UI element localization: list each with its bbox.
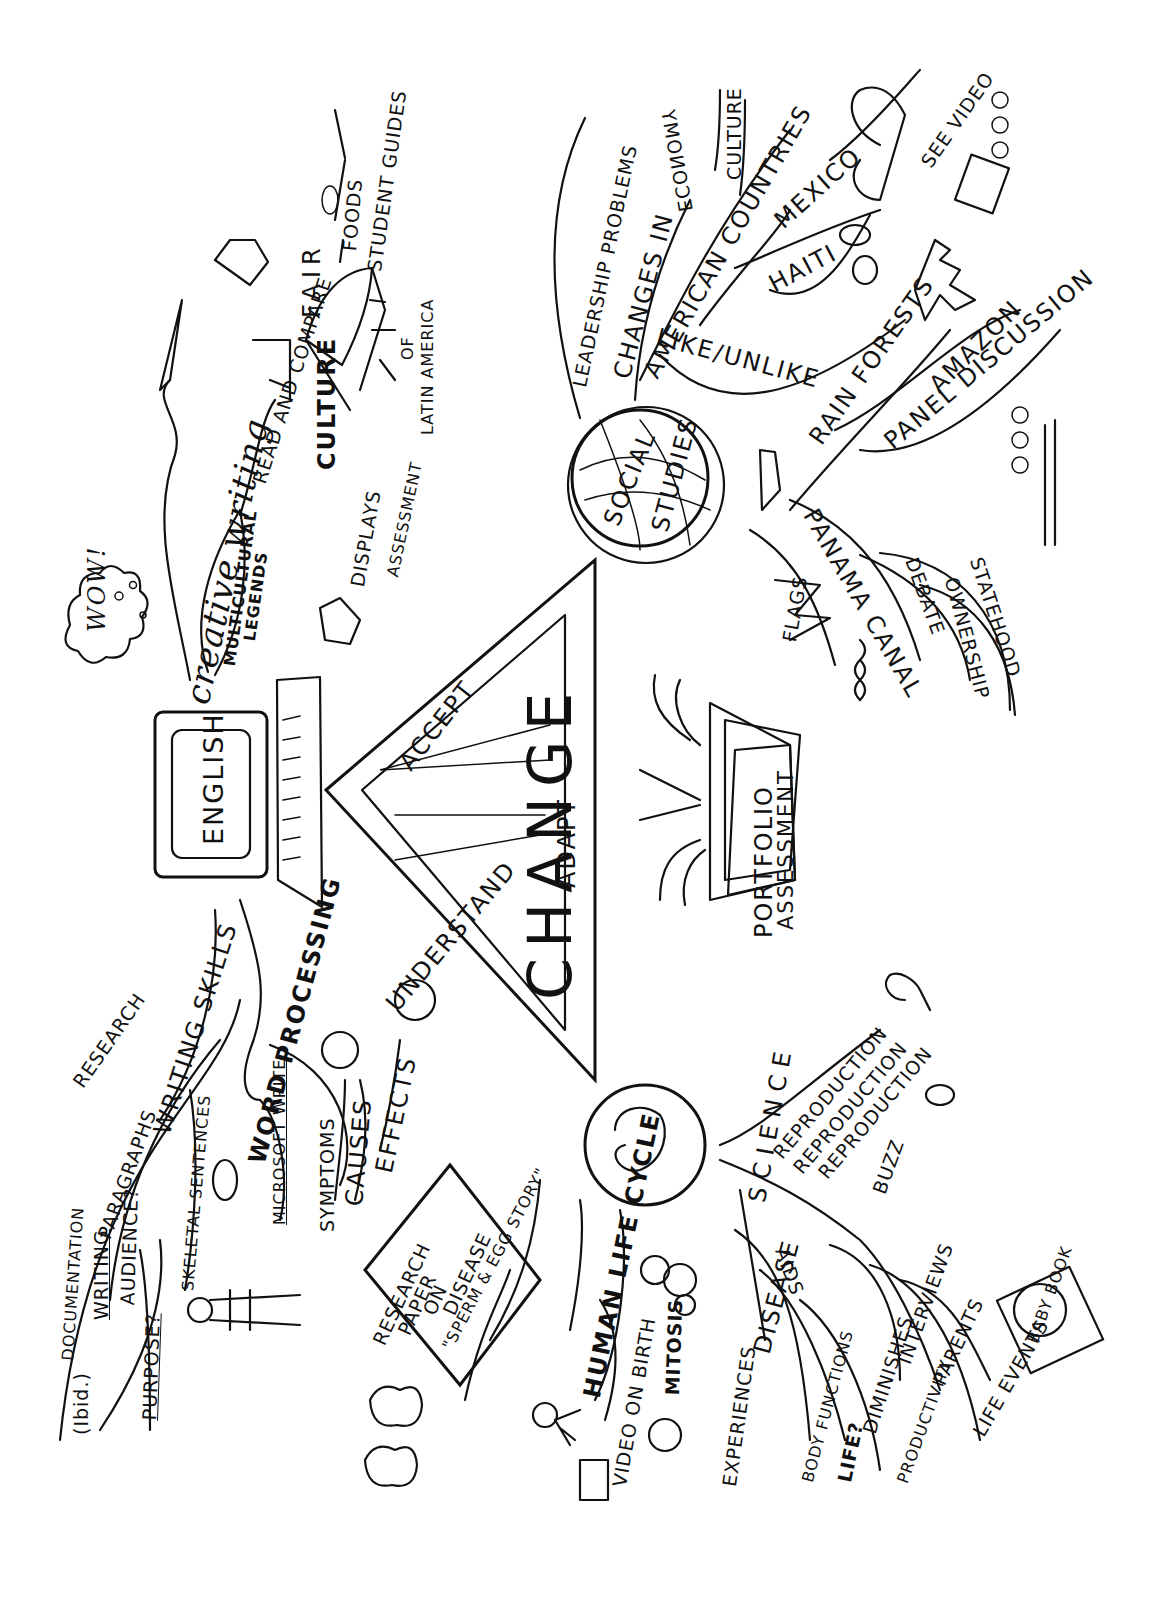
bee-icon xyxy=(926,1085,954,1105)
ibid-label: (Ibid.) xyxy=(72,1372,91,1435)
wow-label: WOW! xyxy=(85,545,109,632)
pen-icon xyxy=(160,300,182,390)
english-hub-label: ENGLISH xyxy=(200,712,227,845)
audience-label: AUDIENCE? xyxy=(118,1187,141,1305)
microsoft-write-label: MICROSOFT WRITE xyxy=(272,1059,288,1225)
purpose-label: PURPOSE? xyxy=(140,1313,163,1421)
symptoms-label: SYMPTOMS xyxy=(318,1117,337,1232)
portfolio-label: PORTFOLIO xyxy=(752,785,776,938)
portfolio-assessment-label: ASSESSMENT xyxy=(776,769,797,930)
sombrero-icon xyxy=(852,88,905,200)
computer-icon xyxy=(155,677,322,907)
cloud-icon xyxy=(860,640,865,700)
culture-label: CULTURE xyxy=(315,337,339,470)
open-book-icon xyxy=(215,240,268,285)
social-culture-label: CULTURE xyxy=(725,87,744,180)
book-icon xyxy=(320,598,360,644)
skeleton-icon xyxy=(188,1290,300,1330)
adapt-label: ADAPT xyxy=(555,798,579,888)
mind-map-canvas: CHANGE UNDERSTAND ACCEPT ADAPT PORTFOLIO… xyxy=(0,0,1174,1598)
germ-icon xyxy=(322,1032,358,1068)
magnifier-icon xyxy=(213,1160,237,1200)
bird-icon xyxy=(886,974,930,1010)
of-label: OF xyxy=(400,336,416,360)
person-icon xyxy=(533,1403,580,1445)
video-icon xyxy=(580,1460,608,1500)
food-icon xyxy=(335,110,345,158)
fair-label: FAIR xyxy=(300,242,324,318)
tv-icon xyxy=(955,155,1009,214)
mitosis-label: MITOSIS xyxy=(663,1299,685,1396)
writing-label: WRITING xyxy=(92,1229,111,1320)
latin-america-label: LATIN AMERICA xyxy=(420,299,436,435)
thought-cloud-icon xyxy=(370,1387,422,1426)
